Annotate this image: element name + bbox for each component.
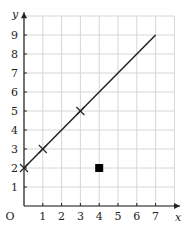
y-tick-label: 2 [11,162,18,175]
y-tick-label: 6 [11,86,18,99]
y-axis-arrow-icon [21,12,27,18]
y-tick-label: 4 [11,124,18,137]
x-axis-label: x [175,211,182,224]
y-tick-label: 7 [11,67,18,80]
y-tick-label: 8 [11,48,18,61]
y-tick-label: 9 [11,29,18,42]
x-tick-label: 5 [115,210,122,223]
x-tick-label: 6 [133,210,140,223]
x-tick-label: 7 [152,210,159,223]
y-tick-label: 5 [11,105,18,118]
x-tick-label: 2 [58,210,65,223]
origin-label: O [5,210,14,223]
x-tick-label: 4 [96,210,103,223]
x-tick-label: 3 [77,210,84,223]
x-axis-arrow-icon [174,203,180,209]
line-graph: 1234567123456789Oxy [0,0,184,229]
y-tick-label: 1 [11,181,18,194]
y-axis-label: y [11,8,19,21]
y-tick-label: 3 [11,143,18,156]
x-tick-label: 1 [39,210,46,223]
square-marker-icon [95,164,103,172]
